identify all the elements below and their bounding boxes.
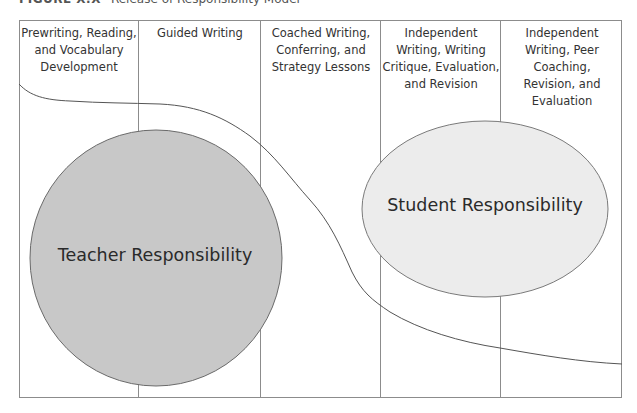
column-header-guided-writing: Guided Writing [139, 25, 261, 42]
column-header-prewriting: Prewriting, Reading, and Vocabulary Deve… [19, 25, 139, 76]
column-header-independent-peer: Independent Writing, Peer Coaching, Revi… [510, 25, 614, 110]
student-responsibility-label: Student Responsibility [387, 195, 583, 215]
column-header-coached-writing: Coached Writing, Conferring, and Strateg… [265, 25, 377, 76]
teacher-responsibility-label: Teacher Responsibility [58, 245, 253, 265]
column-header-independent-critique: Independent Writing, Writing Critique, E… [381, 25, 501, 93]
